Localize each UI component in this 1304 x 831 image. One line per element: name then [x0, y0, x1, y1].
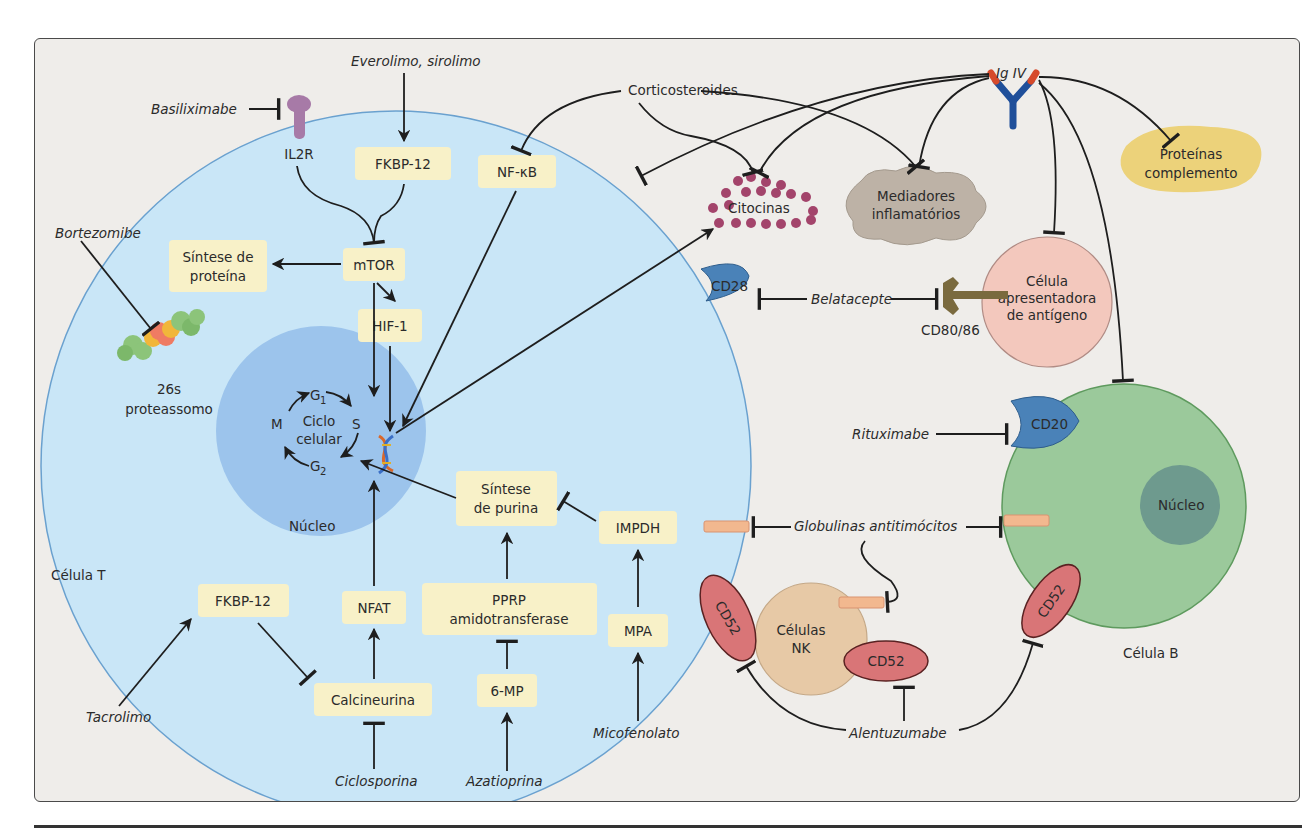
purine-synthesis-box	[456, 471, 557, 526]
complement-proteins: Proteínas complemento	[1121, 126, 1262, 192]
svg-text:CD52: CD52	[868, 653, 905, 669]
svg-text:IL2R: IL2R	[284, 146, 313, 162]
svg-text:Citocinas: Citocinas	[728, 200, 790, 216]
b-cell-label: Célula B	[1123, 645, 1179, 661]
drug-tacrolimo: Tacrolimo	[86, 709, 151, 725]
svg-text:de antígeno: de antígeno	[1007, 307, 1088, 323]
drug-corticosteroides: Corticosteroides	[628, 82, 738, 98]
cd28-receptor: CD28	[701, 264, 749, 301]
svg-text:IMPDH: IMPDH	[616, 520, 660, 536]
drug-belatacepte: Belatacepte	[811, 291, 892, 307]
svg-text:CD28: CD28	[711, 278, 748, 294]
svg-text:26s: 26s	[157, 381, 181, 397]
svg-text:CD20: CD20	[1031, 416, 1068, 432]
svg-text:1: 1	[320, 395, 326, 406]
atg-marker-t-cell	[704, 521, 749, 532]
svg-text:Célula: Célula	[1026, 273, 1068, 289]
drug-rituximabe: Rituximabe	[852, 426, 929, 442]
drug-azatioprina: Azatioprina	[465, 773, 543, 789]
svg-text:amidotransferase: amidotransferase	[450, 611, 569, 627]
svg-text:HIF-1: HIF-1	[372, 318, 407, 334]
svg-text:G: G	[310, 387, 320, 403]
svg-text:NF-κB: NF-κB	[497, 164, 537, 180]
diagram-frame: Célula T Núcleo Núcleo Célula B Célula a…	[34, 38, 1300, 802]
svg-text:complemento: complemento	[1144, 165, 1237, 181]
svg-text:FKBP-12: FKBP-12	[215, 593, 271, 609]
t-cell-label: Célula T	[51, 567, 106, 583]
drug-micofenolato: Micofenolato	[593, 725, 680, 741]
b-nucleus-label: Núcleo	[1158, 497, 1204, 513]
atg-marker-nk-cell	[839, 597, 884, 608]
svg-text:de purina: de purina	[474, 500, 538, 516]
atg-marker-b-cell	[1004, 515, 1049, 526]
protein-synthesis-box	[169, 240, 267, 292]
svg-text:celular: celular	[296, 431, 342, 447]
svg-text:2: 2	[320, 466, 326, 477]
svg-text:Síntese de: Síntese de	[183, 249, 254, 265]
svg-text:CD80/86: CD80/86	[921, 322, 980, 338]
svg-text:proteína: proteína	[190, 268, 246, 284]
svg-text:M: M	[271, 416, 283, 432]
svg-text:PPRP: PPRP	[492, 592, 526, 608]
svg-text:NFAT: NFAT	[357, 600, 391, 616]
svg-text:S: S	[352, 416, 361, 432]
svg-text:Síntese: Síntese	[481, 481, 531, 497]
svg-text:Calcineurina: Calcineurina	[331, 692, 415, 708]
drug-alentuzumabe: Alentuzumabe	[848, 725, 947, 741]
svg-text:6-MP: 6-MP	[490, 683, 523, 699]
svg-text:MPA: MPA	[624, 623, 653, 639]
svg-text:Ciclo: Ciclo	[303, 413, 336, 429]
t-nucleus-label: Núcleo	[289, 518, 335, 534]
svg-text:mTOR: mTOR	[353, 257, 394, 273]
page-rule	[34, 825, 1302, 828]
antigen-presenting-cell: Célula apresentadora de antígeno	[982, 237, 1112, 367]
drug-basiliximabe: Basiliximabe	[151, 101, 237, 117]
svg-text:G: G	[310, 458, 320, 474]
svg-text:Proteínas: Proteínas	[1160, 146, 1223, 162]
drug-everolimo: Everolimo, sirolimo	[351, 53, 481, 69]
drug-bortezomibe: Bortezomibe	[55, 225, 141, 241]
cytokines: Citocinas	[708, 172, 818, 229]
inflammatory-mediators: Mediadores inflamatórios	[846, 166, 986, 244]
svg-text:Mediadores: Mediadores	[877, 188, 955, 204]
svg-text:NK: NK	[792, 640, 812, 656]
svg-text:Células: Células	[776, 622, 825, 638]
drug-ciclosporina: Ciclosporina	[335, 773, 418, 789]
drug-globulinas: Globulinas antitimócitos	[794, 518, 957, 534]
svg-text:inflamatórios: inflamatórios	[872, 206, 961, 222]
drug-ig-iv: Ig IV	[996, 65, 1028, 81]
pprp-box	[422, 583, 597, 635]
immunosuppressant-diagram: Célula T Núcleo Núcleo Célula B Célula a…	[35, 39, 1300, 802]
svg-text:apresentadora: apresentadora	[998, 290, 1097, 306]
svg-text:proteassomo: proteassomo	[125, 401, 213, 417]
cd52-nk-cell: CD52	[844, 641, 928, 681]
svg-text:FKBP-12: FKBP-12	[375, 156, 431, 172]
